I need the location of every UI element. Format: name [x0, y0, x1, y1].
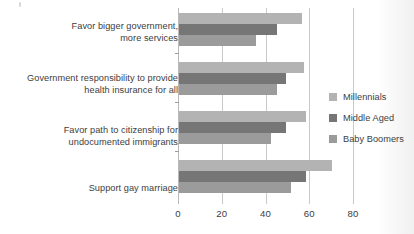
x-tick-label: 20	[216, 208, 227, 219]
bar	[179, 171, 306, 182]
legend-swatch-icon	[329, 135, 337, 143]
legend: Millennials Middle Aged Baby Boomers	[329, 86, 404, 149]
bar	[179, 24, 277, 35]
category-tick	[175, 151, 179, 152]
legend-item: Millennials	[329, 86, 404, 107]
x-tick-label: 60	[304, 208, 315, 219]
legend-swatch-icon	[329, 93, 337, 101]
bar	[179, 73, 286, 84]
bar	[179, 13, 302, 24]
legend-swatch-icon	[329, 114, 337, 122]
category-label: Government responsibility to provide hea…	[27, 72, 178, 96]
bar	[179, 122, 286, 133]
plot-area	[178, 8, 353, 204]
legend-label: Middle Aged	[343, 113, 394, 123]
category-label: Support gay marriage	[89, 182, 178, 194]
gridline	[309, 8, 310, 204]
grouped-bar-chart: Favor bigger government, more services G…	[0, 0, 414, 234]
x-tick-label: 0	[175, 208, 181, 219]
legend-item: Middle Aged	[329, 107, 404, 128]
legend-item: Baby Boomers	[329, 128, 404, 149]
bar	[179, 84, 277, 95]
legend-label: Baby Boomers	[343, 134, 404, 144]
category-label: Favor path to citizenship for undocument…	[64, 124, 178, 148]
category-tick	[175, 53, 179, 54]
legend-label: Millennials	[343, 92, 386, 102]
bar	[179, 133, 271, 144]
bar	[179, 111, 306, 122]
bar	[179, 182, 291, 193]
bar	[179, 62, 304, 73]
bar	[179, 35, 256, 46]
category-tick	[175, 102, 179, 103]
bar	[179, 160, 332, 171]
x-tick-label: 40	[260, 208, 271, 219]
x-tick-label: 80	[347, 208, 358, 219]
category-label: Favor bigger government, more services	[72, 20, 178, 44]
